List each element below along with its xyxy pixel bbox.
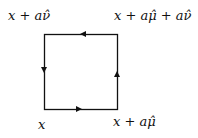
plaquette-square xyxy=(45,35,118,110)
arrow-bottom-right xyxy=(76,106,82,112)
label-bottom-left: x xyxy=(38,118,45,131)
label-top-right: x + aμ̂ + aν̂ xyxy=(114,9,192,22)
arrow-right-up xyxy=(114,71,120,77)
arrow-left-down xyxy=(41,67,47,73)
label-top-left: x + aν̂ xyxy=(8,9,50,22)
label-bottom-right: x + aμ̂ xyxy=(113,115,156,128)
arrow-top-left xyxy=(80,31,86,37)
